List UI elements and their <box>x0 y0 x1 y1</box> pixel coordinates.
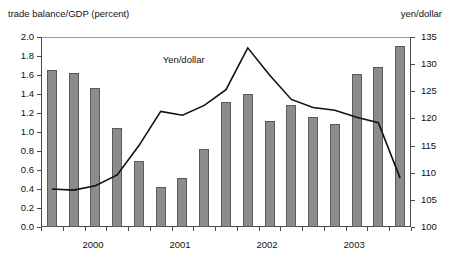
left-tick-label: 0.4 <box>8 183 34 194</box>
x-tick-label: 2001 <box>169 239 190 250</box>
left-tick-label: 1.8 <box>8 50 34 61</box>
x-tick <box>411 227 412 231</box>
left-tick-label: 0.2 <box>8 202 34 213</box>
x-tick <box>237 227 238 231</box>
x-tick <box>302 227 303 231</box>
chart-figure: trade balance/GDP (percent) yen/dollar Y… <box>0 0 450 276</box>
x-tick <box>259 227 260 231</box>
left-tick-label: 1.0 <box>8 126 34 137</box>
right-axis-title: yen/dollar <box>401 8 442 19</box>
x-tick <box>193 227 194 231</box>
right-tick <box>411 173 415 174</box>
line-series <box>41 37 411 227</box>
right-tick <box>411 37 415 38</box>
left-tick-label: 0.8 <box>8 145 34 156</box>
right-tick <box>411 64 415 65</box>
right-tick-label: 105 <box>421 194 437 205</box>
x-tick <box>106 227 107 231</box>
left-tick-label: 0.0 <box>8 221 34 232</box>
x-tick <box>324 227 325 231</box>
left-tick-label: 2.0 <box>8 31 34 42</box>
x-tick <box>346 227 347 231</box>
x-tick <box>367 227 368 231</box>
left-tick-label: 1.6 <box>8 69 34 80</box>
x-tick <box>280 227 281 231</box>
x-tick-label: 2003 <box>344 239 365 250</box>
right-tick-label: 100 <box>421 221 437 232</box>
left-axis-title: trade balance/GDP (percent) <box>8 8 129 19</box>
x-tick <box>128 227 129 231</box>
x-tick <box>63 227 64 231</box>
right-tick-label: 125 <box>421 85 437 96</box>
x-tick <box>215 227 216 231</box>
right-tick-label: 130 <box>421 58 437 69</box>
line-series-label: Yen/dollar <box>163 54 205 65</box>
right-tick <box>411 200 415 201</box>
right-tick <box>411 91 415 92</box>
x-tick <box>389 227 390 231</box>
right-tick-label: 135 <box>421 31 437 42</box>
right-tick-label: 115 <box>421 140 436 151</box>
right-tick <box>411 146 415 147</box>
left-tick-label: 1.2 <box>8 107 34 118</box>
x-tick <box>172 227 173 231</box>
left-tick-label: 0.6 <box>8 164 34 175</box>
x-tick <box>85 227 86 231</box>
x-tick <box>150 227 151 231</box>
plot-area: Yen/dollar <box>41 37 411 227</box>
x-tick-label: 2000 <box>82 239 103 250</box>
right-tick-label: 110 <box>421 167 436 178</box>
left-tick-label: 1.4 <box>8 88 34 99</box>
right-tick-label: 120 <box>421 112 437 123</box>
right-tick <box>411 118 415 119</box>
x-tick <box>41 227 42 231</box>
x-tick-label: 2002 <box>257 239 278 250</box>
